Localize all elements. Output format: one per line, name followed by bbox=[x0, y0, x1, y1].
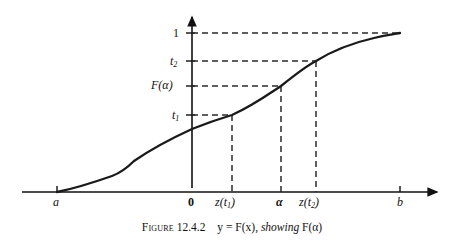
y-tick-label-f-alpha: F(α) bbox=[151, 79, 173, 91]
x-tick-label-a: a bbox=[53, 196, 59, 208]
y-tick-label-t2-sub: 2 bbox=[173, 60, 177, 69]
x-tick-label-z-t1-suffix: ) bbox=[231, 195, 235, 209]
y-tick-label-one: 1 bbox=[173, 27, 179, 39]
y-tick-label-t2: t2 bbox=[170, 55, 177, 69]
caption-number: 12.4.2 bbox=[177, 221, 206, 233]
caption-emphasis: showing bbox=[261, 221, 299, 233]
x-tick-label-b: b bbox=[397, 196, 403, 208]
figure-caption: Figure 12.4.2 y = F(x), showing F(α) bbox=[0, 221, 464, 233]
x-tick-label-z-t1: z(t1) bbox=[215, 196, 235, 210]
y-tick-label-t1: t1 bbox=[172, 109, 179, 123]
caption-equation: y = F(x), bbox=[217, 221, 258, 233]
caption-label: Figure bbox=[142, 221, 174, 233]
y-tick-label-t1-sub: 1 bbox=[175, 114, 179, 123]
x-tick-label-z-t1-text: z(t bbox=[215, 195, 227, 209]
x-tick-label-alpha: α bbox=[276, 196, 283, 208]
x-tick-label-z-t2-suffix: ) bbox=[315, 195, 319, 209]
x-tick-label-z-t2: z(t2) bbox=[299, 196, 319, 210]
cdf-curve bbox=[57, 33, 400, 192]
x-tick-label-zero: 0 bbox=[188, 196, 194, 208]
figure-container: a 0 z(t1) α z(t2) b 1 t2 F(α) t1 Figure … bbox=[0, 0, 464, 248]
plot-canvas bbox=[0, 0, 464, 248]
x-tick-label-z-t2-text: z(t bbox=[299, 195, 311, 209]
caption-tail: F(α) bbox=[302, 221, 322, 233]
